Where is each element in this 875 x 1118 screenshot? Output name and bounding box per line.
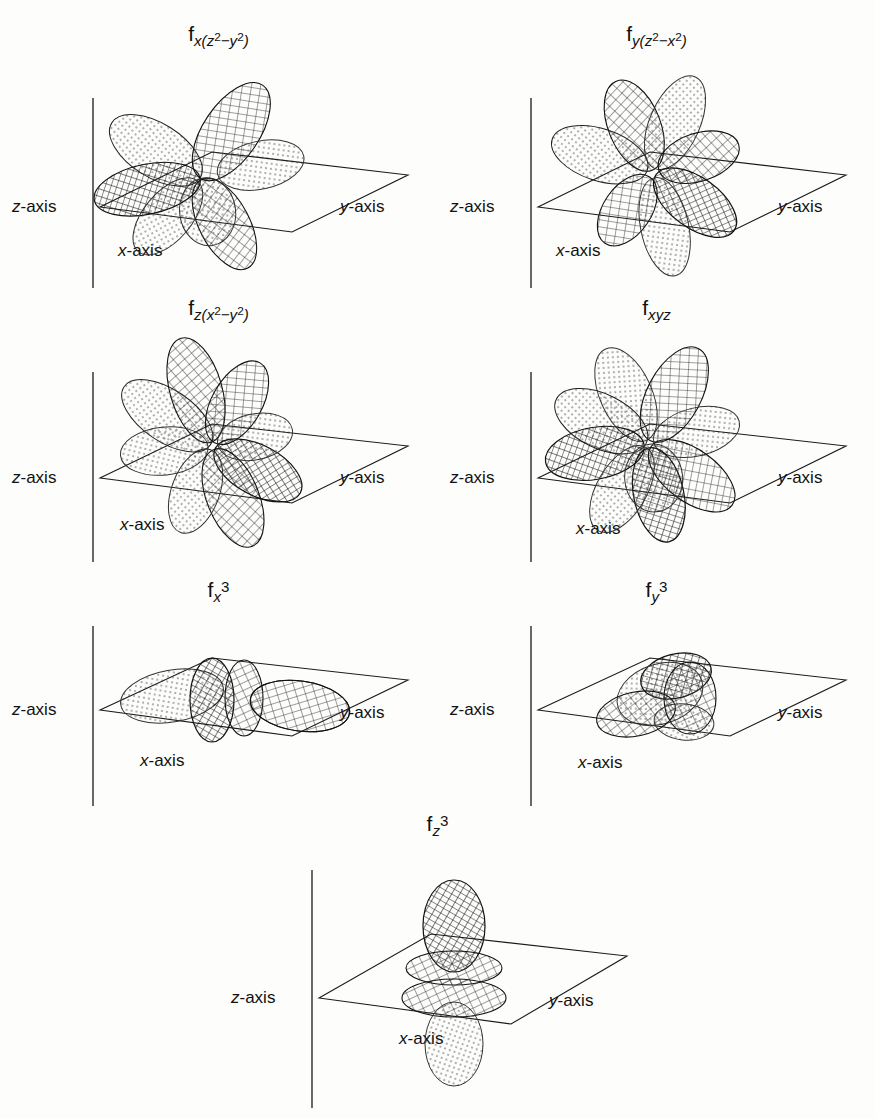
orbital-plot-fy3: z-axis x-axis y-axis <box>438 618 875 808</box>
orbital-plot-fz3: z-axis x-axis y-axis <box>219 848 656 1110</box>
axis-label-y: y-axis <box>777 468 822 487</box>
axis-label-x: x-axis <box>577 753 622 772</box>
orbital-plot-fy-z2-x2: z-axis x-axis y-axis <box>438 60 875 290</box>
axis-label-z: z-axis <box>230 988 275 1007</box>
orbital-lobes <box>541 336 747 547</box>
orbital-lobes <box>116 658 353 742</box>
axis-label-x: x-axis <box>119 515 164 534</box>
panel-title-fxyz: fxyz <box>438 296 875 323</box>
axis-label-y: y-axis <box>339 468 384 487</box>
orbital-lobes <box>402 880 506 1086</box>
orbital-panel-fx3: fx3 z-axis x-axis y-axis <box>0 578 437 808</box>
orbital-plot-fx-z2-y2: z-axis x-axis y-axis <box>0 60 437 290</box>
axis-label-x: x-axis <box>555 241 600 260</box>
orbital-plot-fx3: z-axis x-axis y-axis <box>0 618 437 808</box>
orbital-plot-fz-x2-y2: z-axis x-axis y-axis <box>0 334 437 564</box>
axis-label-z: z-axis <box>449 700 494 719</box>
panel-title-fx3: fx3 <box>0 578 437 605</box>
orbital-panel-fy3: fy3 z-axis x-axis y-axis <box>438 578 875 808</box>
orbital-panel-fx-z2-y2: fx(z2−y2) <box>0 22 437 290</box>
figure-page: fx(z2−y2) <box>0 0 875 1118</box>
orbital-panel-fxyz: fxyz z-axis x-axis y-axis <box>438 296 875 564</box>
orbital-panel-fy-z2-x2: fy(z2−x2) z-axis x-axis y-axis <box>438 22 875 290</box>
orbital-lobes <box>592 646 716 744</box>
axis-label-z: z-axis <box>11 700 56 719</box>
orbital-panel-fz-x2-y2: fz(x2−y2) z-axis x-axis y-axis <box>0 296 437 564</box>
panel-title-fy3: fy3 <box>438 578 875 605</box>
axis-label-y: y-axis <box>777 703 822 722</box>
axis-label-z: z-axis <box>449 197 494 216</box>
axis-label-y: y-axis <box>548 991 593 1010</box>
panel-title-fz3: fz3 <box>219 812 656 839</box>
orbital-panel-fz3: fz3 z-axis x-axis y-axis <box>219 812 656 1112</box>
panel-title-fy-z2-x2: fy(z2−x2) <box>438 22 875 49</box>
panel-title-fx-z2-y2: fx(z2−y2) <box>0 22 437 49</box>
axis-label-z: z-axis <box>449 468 494 487</box>
axis-label-x: x-axis <box>139 751 184 770</box>
orbital-plot-fxyz: z-axis x-axis y-axis <box>438 334 875 564</box>
axis-label-z: z-axis <box>11 468 56 487</box>
panel-title-fz-x2-y2: fz(x2−y2) <box>0 296 437 323</box>
axis-label-y: y-axis <box>777 197 822 216</box>
axis-label-z: z-axis <box>11 197 56 216</box>
axis-label-y: y-axis <box>339 197 384 216</box>
